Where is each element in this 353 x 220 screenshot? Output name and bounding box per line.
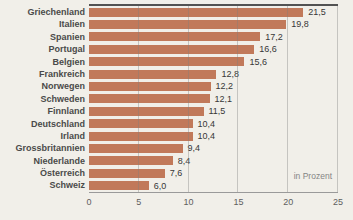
unit-label: in Prozent xyxy=(294,171,332,181)
bar-value-label: 9,4 xyxy=(188,143,201,153)
x-tick-label: 25 xyxy=(333,196,343,208)
bar xyxy=(89,57,244,66)
category-label: Belgien xyxy=(0,56,85,68)
bar xyxy=(89,119,193,128)
x-axis: 0510152025 xyxy=(89,196,338,208)
bar-row: 8,4 xyxy=(89,155,338,167)
category-label: Griechenland xyxy=(0,6,85,18)
category-label: Niederlande xyxy=(0,155,85,167)
bar-value-label: 12,2 xyxy=(216,81,234,91)
bar-row: 10,4 xyxy=(89,130,338,142)
bar-value-label: 7,6 xyxy=(170,168,183,178)
bar-value-label: 19,8 xyxy=(291,19,309,29)
bar-row: 19,8 xyxy=(89,18,338,30)
bar xyxy=(89,45,254,54)
category-label: Grossbritannien xyxy=(0,142,85,154)
bar-row: 15,6 xyxy=(89,56,338,68)
bar xyxy=(89,169,165,178)
bar-row: 12,2 xyxy=(89,80,338,92)
bar-value-label: 10,4 xyxy=(198,119,216,129)
bar xyxy=(89,32,260,41)
bar-chart: GriechenlandItalienSpanienPortugalBelgie… xyxy=(0,0,353,220)
category-label: Finnland xyxy=(0,105,85,117)
bar-row: 11,5 xyxy=(89,105,338,117)
bar xyxy=(89,132,193,141)
x-tick-label: 15 xyxy=(233,196,243,208)
bar xyxy=(89,8,303,17)
bar-row: 9,4 xyxy=(89,142,338,154)
category-labels: GriechenlandItalienSpanienPortugalBelgie… xyxy=(0,6,85,192)
category-label: Italien xyxy=(0,18,85,30)
gridline xyxy=(287,6,288,192)
category-label: Irland xyxy=(0,130,85,142)
gridline xyxy=(237,6,238,192)
x-tick-label: 10 xyxy=(184,196,194,208)
bar-value-label: 11,5 xyxy=(209,106,226,116)
bar-value-label: 15,6 xyxy=(249,57,267,67)
category-label: Spanien xyxy=(0,31,85,43)
bar xyxy=(89,156,173,165)
bar-value-label: 17,2 xyxy=(265,32,283,42)
category-label: Frankreich xyxy=(0,68,85,80)
bar-row: 10,4 xyxy=(89,118,338,130)
category-label: Norwegen xyxy=(0,80,85,92)
gridline xyxy=(138,6,139,192)
category-label: Österreich xyxy=(0,167,85,179)
bar xyxy=(89,144,183,153)
bar-row: 21,5 xyxy=(89,6,338,18)
category-label: Portugal xyxy=(0,43,85,55)
bar xyxy=(89,107,204,116)
bar xyxy=(89,181,149,190)
bar-value-label: 10,4 xyxy=(198,131,216,141)
bar-row: 12,1 xyxy=(89,93,338,105)
bar xyxy=(89,70,216,79)
bar xyxy=(89,94,210,103)
bar-value-label: 16,6 xyxy=(259,44,277,54)
gridline xyxy=(188,6,189,192)
bar xyxy=(89,82,211,91)
x-tick-label: 5 xyxy=(136,196,141,208)
plot-area: 21,519,817,216,615,612,812,212,111,510,4… xyxy=(89,4,338,193)
bar-value-label: 6,0 xyxy=(154,181,167,191)
bar-row: 17,2 xyxy=(89,31,338,43)
x-tick-label: 0 xyxy=(86,196,91,208)
category-label: Schweiz xyxy=(0,179,85,191)
bar-value-label: 12,1 xyxy=(215,94,233,104)
bar-row: 6,0 xyxy=(89,180,338,192)
x-tick-label: 20 xyxy=(283,196,293,208)
bar-value-label: 21,5 xyxy=(308,7,326,17)
gridline xyxy=(337,6,338,192)
bar-value-label: 12,8 xyxy=(221,69,239,79)
bar-row: 12,8 xyxy=(89,68,338,80)
category-label: Schweden xyxy=(0,93,85,105)
bar-row: 16,6 xyxy=(89,43,338,55)
category-label: Deutschland xyxy=(0,118,85,130)
